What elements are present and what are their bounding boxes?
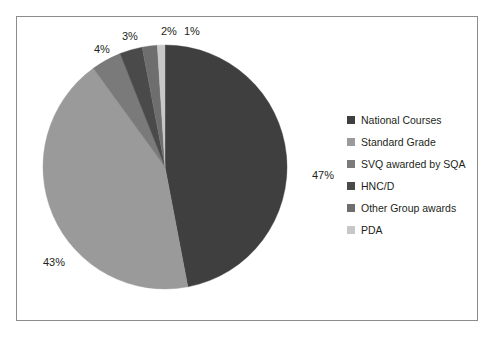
pie-slices	[43, 45, 287, 289]
slice-label-national-courses: 47%	[312, 170, 334, 181]
legend-item[interactable]: National Courses	[347, 109, 475, 130]
legend-swatch-icon	[347, 138, 355, 146]
legend-item-label: Standard Grade	[361, 136, 436, 148]
legend-swatch-icon	[347, 160, 355, 168]
legend-item-label: HNC/D	[361, 180, 394, 192]
legend-swatch-icon	[347, 116, 355, 124]
pie-svg	[42, 44, 288, 290]
legend-item[interactable]: Other Group awards	[347, 197, 475, 218]
slice-label-svq: 4%	[94, 44, 110, 55]
legend-item-label: SVQ awarded by SQA	[361, 158, 465, 170]
legend-item-label: Other Group awards	[361, 202, 456, 214]
legend-item[interactable]: Standard Grade	[347, 131, 475, 152]
slice-label-pda: 1%	[184, 26, 200, 37]
legend-swatch-icon	[347, 204, 355, 212]
pie-graphic	[42, 44, 288, 290]
legend-item[interactable]: SVQ awarded by SQA	[347, 153, 475, 174]
slice-label-hncd: 3%	[122, 31, 138, 42]
legend-item-label: National Courses	[361, 114, 442, 126]
legend-item-label: PDA	[361, 224, 383, 236]
legend-item[interactable]: PDA	[347, 219, 475, 240]
slice-label-standard-grade: 43%	[43, 257, 65, 268]
legend-swatch-icon	[347, 182, 355, 190]
legend-swatch-icon	[347, 226, 355, 234]
chart-frame: 47% 43% 4% 3% 2% 1% National CoursesStan…	[16, 16, 478, 321]
legend-item[interactable]: HNC/D	[347, 175, 475, 196]
chart-legend: National CoursesStandard GradeSVQ awarde…	[347, 109, 475, 241]
pie-slice[interactable]	[165, 45, 287, 287]
pie-chart: 47% 43% 4% 3% 2% 1% National CoursesStan…	[17, 17, 479, 322]
slice-label-other-group: 2%	[161, 26, 177, 37]
